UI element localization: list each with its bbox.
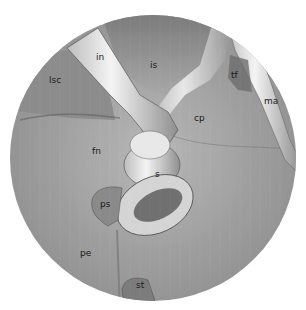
label-incus: in bbox=[96, 53, 104, 62]
label-cp: cp bbox=[194, 114, 205, 123]
anatomy-figure: in is lsc tf ma cp fn s ps pe st bbox=[0, 0, 306, 310]
label-is: is bbox=[150, 61, 157, 70]
label-facial-nerve: fn bbox=[92, 147, 101, 156]
label-ps: ps bbox=[100, 200, 110, 209]
label-tf: tf bbox=[231, 71, 238, 80]
label-malleus: ma bbox=[264, 97, 278, 106]
anatomy-illustration bbox=[0, 0, 306, 310]
label-pe: pe bbox=[80, 249, 91, 258]
label-st: st bbox=[136, 281, 144, 290]
label-stapes: s bbox=[155, 170, 160, 179]
label-lsc: lsc bbox=[49, 76, 61, 85]
